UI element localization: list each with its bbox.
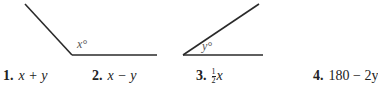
- choice-3-expression: x: [217, 68, 223, 83]
- choice-4-number: 4.: [313, 68, 324, 83]
- choice-2-expression: x − y: [108, 68, 137, 83]
- choice-4-expression: 180 − 2y: [329, 68, 378, 83]
- angle-x-label: x°: [76, 37, 87, 51]
- angle-y-label: y°: [201, 39, 212, 53]
- choice-1-number: 1.: [3, 68, 14, 83]
- fraction-denominator: 2: [212, 76, 216, 85]
- choice-1-expression: x + y: [19, 68, 48, 83]
- choice-2: 2.x − y: [92, 67, 136, 85]
- fraction-numerator: 1: [212, 68, 216, 76]
- angle-y-figure: y°: [183, 4, 263, 55]
- choice-4: 4.180 − 2y: [313, 67, 378, 85]
- choice-3: 3.12x: [196, 67, 223, 85]
- choice-3-number: 3.: [196, 68, 207, 83]
- angle-y-slanted-ray: [183, 4, 259, 55]
- angle-x-figure: x°: [25, 4, 157, 55]
- choice-3-fraction: 12: [212, 68, 216, 85]
- choice-2-number: 2.: [92, 68, 103, 83]
- choice-1: 1.x + y: [3, 67, 47, 85]
- angle-x-slanted-ray: [25, 4, 72, 55]
